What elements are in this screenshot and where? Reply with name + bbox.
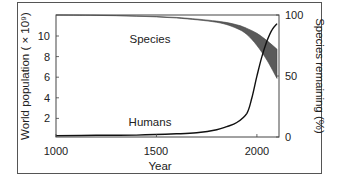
chart: Species Humans 1000 1500 2000 Year 2 4 6… bbox=[0, 0, 340, 185]
species-band bbox=[56, 15, 277, 78]
y-tick-4: 4 bbox=[44, 92, 50, 104]
y-tick-10: 10 bbox=[38, 30, 50, 42]
species-annotation: Species bbox=[130, 33, 171, 45]
x-tick-1500: 1500 bbox=[144, 145, 168, 157]
x-tick-1000: 1000 bbox=[44, 145, 68, 157]
x-tick-2000: 2000 bbox=[245, 145, 269, 157]
y-tick-8: 8 bbox=[44, 51, 50, 63]
y-tick-6: 6 bbox=[44, 71, 50, 83]
y2-axis-title: Species remaining (%) bbox=[314, 18, 326, 134]
y2-tick-0: 0 bbox=[285, 131, 291, 143]
y-axis-title: World population ( × 10⁹) bbox=[19, 12, 31, 140]
y-tick-2: 2 bbox=[44, 112, 50, 124]
x-axis-title: Year bbox=[148, 160, 171, 172]
humans-annotation: Humans bbox=[129, 116, 172, 128]
y2-tick-50: 50 bbox=[285, 70, 297, 82]
y2-tick-100: 100 bbox=[285, 9, 303, 21]
